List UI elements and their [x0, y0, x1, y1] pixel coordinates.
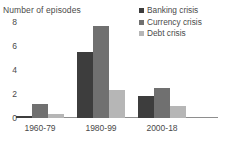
bar[interactable]: [93, 26, 109, 118]
x-axis-tick-label: 1980-99: [85, 123, 116, 133]
bar[interactable]: [154, 88, 170, 118]
y-axis-title: Number of episodes: [3, 5, 81, 15]
plot-area: 86420 1960-791980-992000-18: [22, 22, 218, 118]
legend-label-banking-crisis: Banking crisis: [147, 6, 198, 15]
legend-swatch-banking-crisis: [139, 8, 144, 13]
legend-item-banking-crisis[interactable]: Banking crisis: [139, 6, 202, 15]
bar-group: 2000-18: [134, 22, 190, 118]
x-axis-tick-label: 2000-18: [146, 123, 177, 133]
bar[interactable]: [138, 96, 154, 118]
bar[interactable]: [170, 106, 186, 118]
bar-group: 1980-99: [73, 22, 129, 118]
bar-chart: Number of episodes Banking crisis Curren…: [0, 0, 225, 142]
bar[interactable]: [32, 104, 48, 118]
bar[interactable]: [16, 116, 32, 118]
bar-group: 1960-79: [12, 22, 68, 118]
x-axis-tick-label: 1960-79: [24, 123, 55, 133]
bar[interactable]: [77, 52, 93, 118]
bar[interactable]: [48, 114, 64, 118]
bar[interactable]: [109, 90, 125, 118]
